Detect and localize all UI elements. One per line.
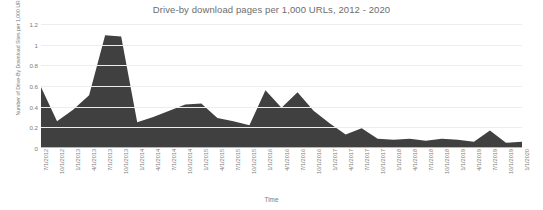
x-tick-label: 1/1/2017 [332, 149, 338, 191]
x-tick-label: 4/1/2015 [219, 149, 225, 191]
x-tick-label: 10/1/2012 [59, 149, 65, 191]
x-tick-label: 4/1/2019 [476, 149, 482, 191]
x-tick-label: 1/1/2015 [203, 149, 209, 191]
x-tick-label: 4/1/2014 [155, 149, 161, 191]
x-tick-label: 4/1/2013 [91, 149, 97, 191]
x-tick-label: 10/1/2019 [508, 149, 514, 191]
x-tick-label: 1/1/2016 [267, 149, 273, 191]
plot-area [41, 24, 522, 148]
x-tick-label: 1/1/2019 [460, 149, 466, 191]
area-series-polygon [41, 35, 522, 148]
x-axis-line [41, 147, 522, 148]
y-tick-label: 0 [18, 145, 38, 152]
gridline [41, 65, 522, 66]
gridline [41, 24, 522, 25]
y-tick-label: 0.2 [18, 124, 38, 131]
x-tick-label: 1/1/2018 [396, 149, 402, 191]
chart-title: Drive-by download pages per 1,000 URLs, … [0, 4, 543, 15]
y-tick-label: 1 [18, 41, 38, 48]
x-axis-title: Time [0, 196, 543, 203]
x-tick-label: 7/1/2017 [364, 149, 370, 191]
x-tick-label: 10/1/2018 [444, 149, 450, 191]
x-tick-label: 7/1/2012 [43, 149, 49, 191]
x-tick-label: 10/1/2013 [123, 149, 129, 191]
x-tick-label: 1/1/2014 [139, 149, 145, 191]
x-axis-tick-labels: 7/1/201210/1/20121/1/20134/1/20137/1/201… [41, 149, 522, 191]
x-tick-label: 4/1/2016 [284, 149, 290, 191]
x-tick-label: 10/1/2016 [316, 149, 322, 191]
x-tick-label: 10/1/2015 [251, 149, 257, 191]
y-tick-label: 0.8 [18, 62, 38, 69]
y-tick-label: 0.6 [18, 83, 38, 90]
x-tick-label: 10/1/2017 [380, 149, 386, 191]
x-tick-label: 7/1/2018 [428, 149, 434, 191]
x-tick-label: 4/1/2018 [412, 149, 418, 191]
x-tick-label: 7/1/2016 [300, 149, 306, 191]
x-tick-label: 7/1/2019 [492, 149, 498, 191]
y-tick-label: 1.2 [18, 21, 38, 28]
y-tick-label: 0.4 [18, 103, 38, 110]
x-tick-label: 7/1/2014 [171, 149, 177, 191]
x-tick-label: 10/1/2014 [187, 149, 193, 191]
x-tick-label: 7/1/2015 [235, 149, 241, 191]
x-tick-label: 1/1/2013 [75, 149, 81, 191]
gridline [41, 107, 522, 108]
gridline [41, 86, 522, 87]
x-tick-label: 7/1/2013 [107, 149, 113, 191]
gridline [41, 127, 522, 128]
drive-by-download-area-chart: Drive-by download pages per 1,000 URLs, … [0, 0, 543, 210]
x-tick-label: 1/1/2020 [524, 149, 530, 191]
y-axis-tick-labels: 1.210.80.60.40.20 [18, 18, 38, 150]
gridline [41, 45, 522, 46]
x-tick-label: 4/1/2017 [348, 149, 354, 191]
